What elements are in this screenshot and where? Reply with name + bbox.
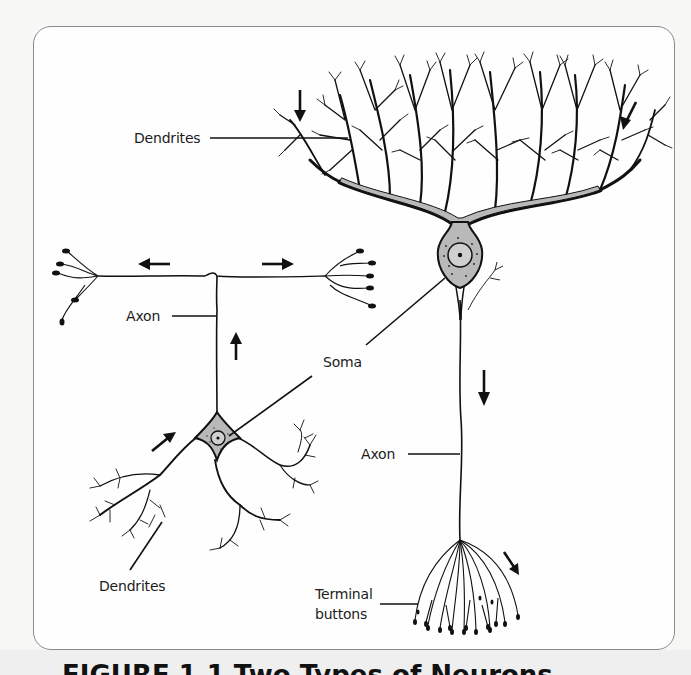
arrow-down-icon <box>478 370 490 406</box>
label-terminal-buttons-line2: buttons <box>315 605 367 623</box>
arrow-up-right-icon <box>152 432 176 451</box>
arrow-right-icon <box>262 258 294 270</box>
leader-lines <box>130 138 460 604</box>
arrow-down-icon <box>294 90 306 122</box>
label-soma: Soma <box>323 353 362 371</box>
label-left-dendrites: Dendrites <box>99 577 165 595</box>
label-left-axon: Axon <box>126 307 160 325</box>
leader-soma-lower <box>229 376 312 436</box>
neuron-diagram <box>0 0 691 675</box>
label-terminal-buttons-line1: Terminal <box>315 585 373 603</box>
left-neuron-soma <box>195 412 240 460</box>
leader-left-dendrites <box>130 522 162 570</box>
arrow-left-icon <box>138 258 170 270</box>
label-right-axon: Axon <box>361 445 395 463</box>
left-neuron-axon <box>52 249 376 421</box>
arrow-down-right-icon <box>504 552 519 575</box>
leader-soma-upper <box>366 278 445 345</box>
label-right-dendrites: Dendrites <box>134 129 200 147</box>
arrow-up-icon <box>230 332 242 360</box>
right-neuron-axon <box>460 262 503 540</box>
figure-caption: FIGURE 1.1 Two Types of Neurons <box>62 662 553 675</box>
